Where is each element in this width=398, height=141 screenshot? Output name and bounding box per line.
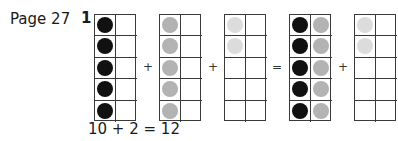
frame-cell [95, 58, 116, 79]
frame-cell [376, 101, 397, 122]
black-counter-icon [292, 103, 308, 119]
frame-cell [246, 36, 267, 57]
black-counter-icon [97, 81, 113, 97]
grey-counter-icon [162, 81, 178, 97]
frame-cell [160, 101, 181, 122]
frame-cell [246, 58, 267, 79]
frame-cell [160, 79, 181, 100]
frame-cell [355, 79, 376, 100]
ten-frame-3 [224, 14, 266, 121]
plus-sign: + [208, 60, 218, 74]
frame-cell [116, 58, 137, 79]
frame-cell [95, 101, 116, 122]
frame-cell [225, 79, 246, 100]
ten-frame-1 [94, 14, 136, 121]
grey-counter-icon [313, 103, 329, 119]
grey-counter-icon [162, 60, 178, 76]
frame-cell [225, 58, 246, 79]
grey-counter-icon [313, 60, 329, 76]
frame-cell [376, 79, 397, 100]
frame-cell [290, 15, 311, 36]
frame-cell [225, 101, 246, 122]
frame-cell [246, 15, 267, 36]
frame-cell [95, 36, 116, 57]
frame-cell [376, 15, 397, 36]
frame-cell [376, 58, 397, 79]
frame-cell [225, 15, 246, 36]
ten-frame-5 [354, 14, 396, 121]
ten-frame-2 [159, 14, 201, 121]
frame-cell [246, 101, 267, 122]
frame-cell [181, 101, 202, 122]
ten-frame-4 [289, 14, 331, 121]
grey-counter-icon [162, 38, 178, 54]
black-counter-icon [292, 17, 308, 33]
black-counter-icon [97, 17, 113, 33]
frame-cell [116, 15, 137, 36]
frame-cell [311, 36, 332, 57]
frame-cell [355, 58, 376, 79]
frame-cell [181, 79, 202, 100]
frame-cell [290, 58, 311, 79]
grey-counter-icon [313, 17, 329, 33]
page-label: Page 27 [10, 10, 70, 28]
light-counter-icon [227, 17, 243, 33]
frame-cell [116, 101, 137, 122]
frame-cell [225, 36, 246, 57]
frame-cell [376, 36, 397, 57]
frame-cell [311, 15, 332, 36]
frame-cell [181, 36, 202, 57]
grey-counter-icon [162, 17, 178, 33]
plus-sign: + [338, 60, 348, 74]
frame-cell [116, 79, 137, 100]
frame-cell [290, 36, 311, 57]
equation: 10 + 2 = 12 [88, 120, 180, 138]
question-number: 1 [81, 9, 91, 27]
frame-cell [181, 58, 202, 79]
frame-cell [355, 101, 376, 122]
frame-cell [311, 58, 332, 79]
black-counter-icon [97, 38, 113, 54]
equals-sign: = [272, 60, 282, 74]
frame-cell [116, 36, 137, 57]
light-counter-icon [227, 38, 243, 54]
black-counter-icon [97, 60, 113, 76]
black-counter-icon [292, 38, 308, 54]
plus-sign: + [143, 60, 153, 74]
frame-cell [290, 101, 311, 122]
frame-cell [355, 36, 376, 57]
black-counter-icon [292, 60, 308, 76]
frame-cell [160, 58, 181, 79]
grey-counter-icon [162, 103, 178, 119]
black-counter-icon [97, 103, 113, 119]
frame-cell [311, 101, 332, 122]
frame-cell [95, 15, 116, 36]
frame-cell [95, 79, 116, 100]
black-counter-icon [292, 81, 308, 97]
light-counter-icon [357, 38, 373, 54]
frame-cell [311, 79, 332, 100]
frame-cell [160, 15, 181, 36]
light-counter-icon [357, 17, 373, 33]
grey-counter-icon [313, 81, 329, 97]
frame-cell [246, 79, 267, 100]
grey-counter-icon [313, 38, 329, 54]
frame-cell [290, 79, 311, 100]
frame-cell [181, 15, 202, 36]
frame-cell [355, 15, 376, 36]
frame-cell [160, 36, 181, 57]
